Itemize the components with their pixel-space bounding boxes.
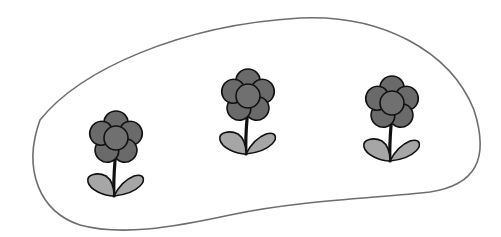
flower-center [380, 91, 404, 115]
flower-center [104, 126, 128, 150]
flowers-in-region-svg [0, 0, 501, 237]
flower-center [236, 84, 260, 108]
illustration [0, 0, 501, 237]
